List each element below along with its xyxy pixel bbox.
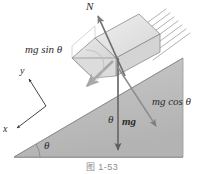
- mg-sin-theta-label: mg sin θ: [25, 44, 62, 55]
- block-on-incline: [72, 14, 160, 78]
- physics-figure: N mg sin θ mg cos θ θ mg θ y x 图 1-53: [0, 0, 204, 174]
- weight-label: mg: [122, 116, 136, 127]
- mg-cos-theta-label: mg cos θ: [152, 96, 191, 107]
- inclined-plane-diagram: [0, 0, 204, 174]
- figure-caption: 图 1-53: [0, 160, 204, 173]
- theta-angle-label-center: θ: [108, 114, 113, 125]
- y-axis-label: y: [20, 66, 24, 76]
- coordinate-axes: [17, 79, 46, 128]
- x-axis-label: x: [3, 124, 7, 134]
- normal-force-label: N: [86, 1, 93, 12]
- theta-angle-label-base: θ: [44, 140, 49, 151]
